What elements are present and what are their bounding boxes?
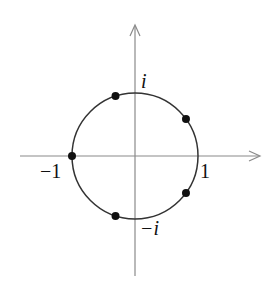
point-root-36deg <box>182 115 190 123</box>
complex-plane-figure: i −1 1 −i <box>0 0 276 282</box>
point-root-252deg <box>112 212 120 220</box>
point-root-324deg <box>182 189 190 197</box>
point-root-108deg <box>112 92 120 100</box>
diagram-canvas: i −1 1 −i <box>0 0 276 282</box>
label-minus-i: −i <box>140 217 159 239</box>
point-root-180deg <box>68 152 76 160</box>
label-one: 1 <box>200 160 210 182</box>
label-minus-one: −1 <box>40 160 61 182</box>
label-i: i <box>141 70 147 92</box>
